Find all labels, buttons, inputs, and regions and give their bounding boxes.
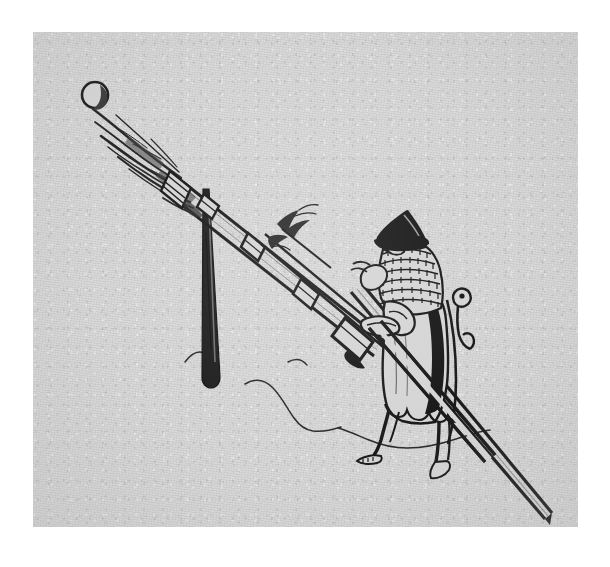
- cannonball: [82, 82, 108, 110]
- kettle-hat: [374, 210, 429, 251]
- barrel-ring-3: [293, 279, 319, 309]
- gunner-front-arm: [351, 262, 387, 290]
- barrel-ring-2: [241, 233, 265, 261]
- belt-pouch: [453, 289, 474, 349]
- engraving-artwork: [33, 32, 578, 527]
- engraving-page: [0, 0, 610, 567]
- engraving-plate: [33, 32, 578, 527]
